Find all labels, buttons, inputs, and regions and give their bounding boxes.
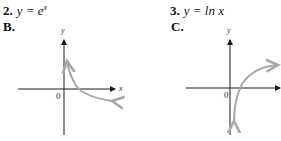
curve bbox=[234, 65, 278, 121]
y-axis-label: y bbox=[227, 26, 231, 35]
origin-label: 0 bbox=[56, 91, 61, 101]
x-axis-label: x bbox=[119, 84, 123, 93]
graphs-canvas bbox=[0, 0, 281, 141]
origin-label: 0 bbox=[224, 90, 229, 100]
graph-c bbox=[186, 40, 280, 135]
curve bbox=[67, 61, 112, 101]
graph-b bbox=[18, 40, 115, 135]
y-axis-label: y bbox=[61, 26, 65, 35]
